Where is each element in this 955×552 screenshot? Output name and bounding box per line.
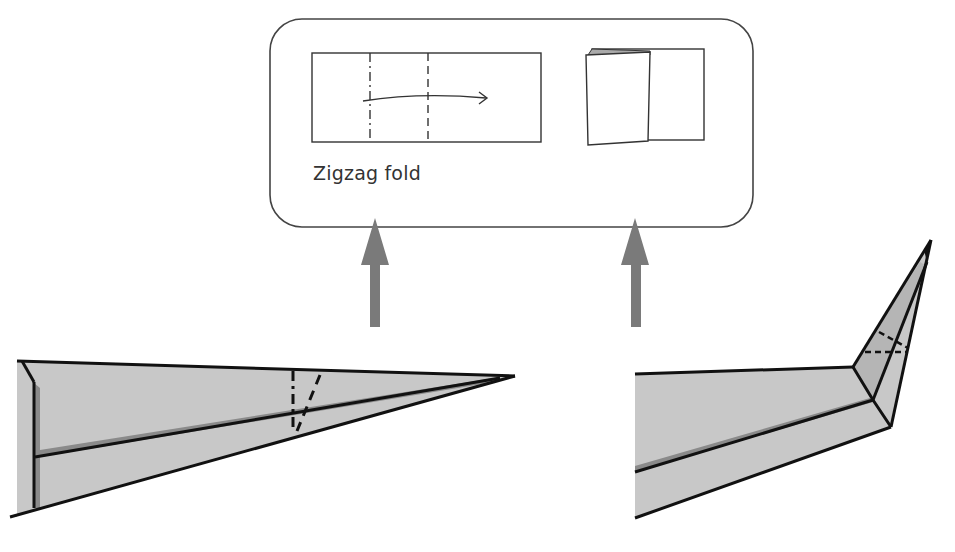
plane-before-zigzag bbox=[10, 361, 515, 517]
inset-after-figure bbox=[586, 49, 704, 145]
inset-before-figure bbox=[312, 53, 541, 142]
arrow-up-icon bbox=[361, 218, 389, 327]
plane-after-zigzag bbox=[635, 240, 931, 518]
origami-diagram bbox=[0, 0, 955, 552]
inset-caption: Zigzag fold bbox=[313, 162, 421, 184]
arrow-up-icon bbox=[621, 218, 649, 327]
